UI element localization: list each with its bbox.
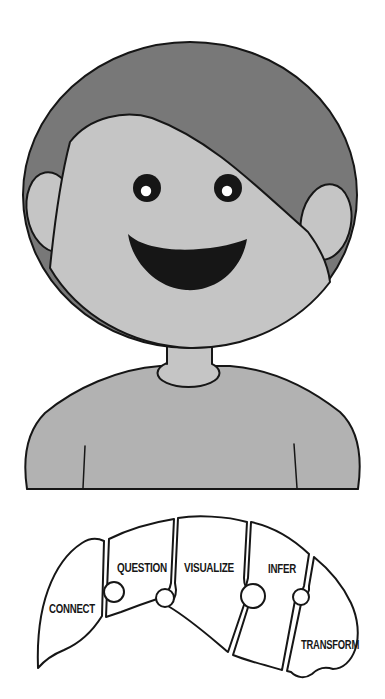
right-eye-highlight	[222, 186, 232, 196]
left-eye-highlight	[141, 186, 151, 196]
puzzle-knob-2	[156, 589, 174, 607]
puzzle-piece-visualize	[168, 516, 251, 652]
reading-strategies-illustration: CONNECT QUESTION VISUALIZE INFER TRANSFO…	[0, 0, 385, 699]
puzzle-knob-4	[293, 589, 309, 605]
puzzle-group	[38, 516, 358, 677]
puzzle-label-transform: TRANSFORM	[301, 638, 359, 652]
puzzle-label-visualize: VISUALIZE	[184, 561, 234, 575]
puzzle-knob-1	[104, 582, 124, 602]
puzzle-label-question: QUESTION	[117, 561, 167, 575]
puzzle-label-connect: CONNECT	[49, 602, 96, 616]
puzzle-label-infer: INFER	[268, 562, 296, 576]
illustration-canvas: CONNECT QUESTION VISUALIZE INFER TRANSFO…	[0, 0, 385, 699]
puzzle-knob-3	[241, 584, 265, 608]
